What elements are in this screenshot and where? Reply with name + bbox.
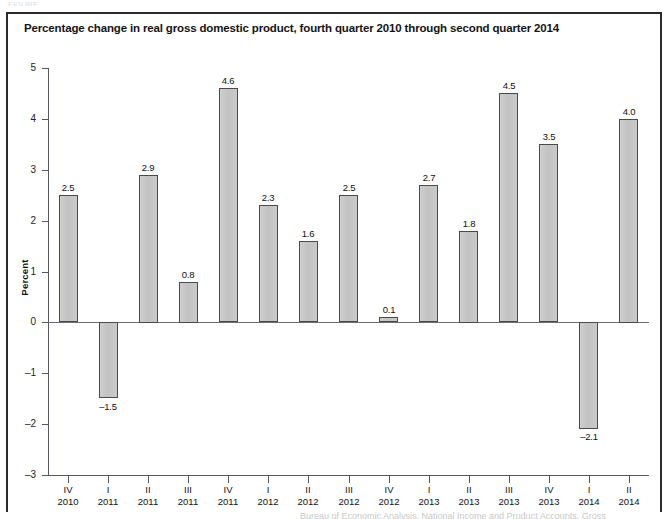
x-axis-tick <box>629 476 630 483</box>
bar <box>299 241 318 322</box>
bar-value-label: –1.5 <box>88 401 128 412</box>
x-axis-year: 2014 <box>606 496 652 508</box>
x-axis-tick <box>148 476 149 483</box>
y-axis-title: Percent <box>19 248 30 308</box>
x-axis-tick <box>228 476 229 483</box>
y-axis-tick <box>42 68 48 69</box>
x-axis-tick <box>389 476 390 483</box>
x-axis-tick <box>349 476 350 483</box>
cropped-top-text: FIGURE <box>8 0 128 6</box>
figure-frame <box>6 12 662 512</box>
bar <box>499 93 518 322</box>
x-axis-tick <box>549 476 550 483</box>
x-axis-tick-label: II2012 <box>285 484 331 507</box>
y-axis-tick-label: 3 <box>10 165 36 175</box>
bar <box>539 144 558 322</box>
source-note: Bureau of Economic Analysis, National In… <box>300 511 650 519</box>
bar <box>619 119 638 323</box>
x-axis-tick <box>589 476 590 483</box>
bar-value-label: –2.1 <box>569 431 609 442</box>
bar <box>339 195 358 322</box>
y-axis-tick <box>42 475 48 476</box>
x-axis-tick <box>509 476 510 483</box>
y-axis-tick <box>42 322 48 323</box>
bar <box>379 317 398 322</box>
bar <box>219 88 238 322</box>
bar-value-label: 4.5 <box>489 80 529 91</box>
y-axis-tick-label: 4 <box>10 114 36 124</box>
y-axis-tick-label: –3 <box>10 470 36 480</box>
bar <box>259 205 278 322</box>
y-axis-tick <box>42 373 48 374</box>
y-axis-tick-label: 0 <box>10 317 36 327</box>
bar-value-label: 0.8 <box>168 269 208 280</box>
x-axis-tick <box>429 476 430 483</box>
bar-value-label: 4.0 <box>609 106 649 117</box>
x-axis-tick <box>108 476 109 483</box>
bar <box>459 231 478 323</box>
bar-value-label: 0.1 <box>369 304 409 315</box>
y-axis-tick-label: 1 <box>10 267 36 277</box>
x-axis-tick-label: II2014 <box>606 484 652 507</box>
y-axis-tick <box>42 170 48 171</box>
bar-value-label: 3.5 <box>529 131 569 142</box>
bar <box>579 322 598 429</box>
x-axis-year: 2012 <box>285 496 331 508</box>
y-axis-tick-label: 2 <box>10 216 36 226</box>
x-axis-tick <box>268 476 269 483</box>
bar-value-label: 1.6 <box>288 228 328 239</box>
x-axis-tick <box>469 476 470 483</box>
bar-value-label: 2.7 <box>409 172 449 183</box>
y-axis-tick <box>42 424 48 425</box>
x-axis-tick <box>68 476 69 483</box>
bar-value-label: 2.5 <box>48 182 88 193</box>
y-axis-tick <box>42 221 48 222</box>
x-axis-tick <box>308 476 309 483</box>
y-axis-tick-label: –1 <box>10 368 36 378</box>
x-axis-quarter: II <box>285 484 331 496</box>
bar-value-label: 2.9 <box>128 162 168 173</box>
bar <box>99 322 118 398</box>
x-axis-quarter: II <box>606 484 652 496</box>
y-axis-tick <box>42 272 48 273</box>
page-title: Percentage change in real gross domestic… <box>24 22 624 34</box>
bar <box>139 175 158 323</box>
bar-value-label: 2.3 <box>248 192 288 203</box>
bar <box>419 185 438 322</box>
y-axis-tick-label: 5 <box>10 63 36 73</box>
y-axis-tick-label: –2 <box>10 419 36 429</box>
x-axis-tick <box>188 476 189 483</box>
bar-value-label: 2.5 <box>329 182 369 193</box>
y-axis-tick <box>42 119 48 120</box>
y-axis-line <box>48 68 49 476</box>
bar <box>179 282 198 323</box>
bar-value-label: 1.8 <box>449 218 489 229</box>
bar <box>59 195 78 322</box>
bar-value-label: 4.6 <box>208 75 248 86</box>
